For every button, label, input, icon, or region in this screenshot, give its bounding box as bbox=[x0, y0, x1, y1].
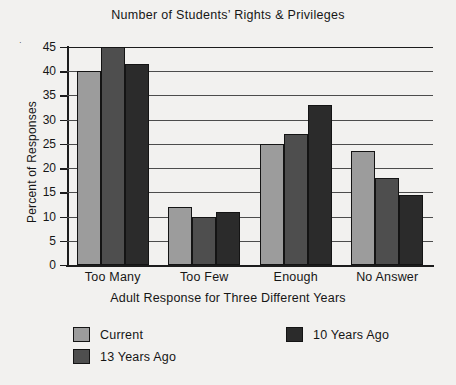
legend-entry[interactable]: 13 Years Ago bbox=[73, 349, 176, 364]
x-axis-title: Adult Response for Three Different Years bbox=[0, 291, 456, 305]
x-axis-tick-label: Too Few bbox=[159, 270, 251, 284]
chart-figure: Number of Students’ Rights & Privileges … bbox=[0, 0, 456, 385]
y-axis-tick-label: 30 bbox=[22, 114, 56, 126]
bar bbox=[216, 212, 240, 265]
bar bbox=[77, 71, 101, 265]
y-axis-tick bbox=[60, 217, 67, 218]
y-axis-tick bbox=[60, 95, 67, 96]
y-axis-tick-label: 15 bbox=[22, 186, 56, 198]
y-axis-tick-label: 45 bbox=[22, 41, 56, 53]
y-axis-tick bbox=[60, 120, 67, 121]
bar bbox=[399, 195, 423, 265]
y-axis-tick bbox=[60, 47, 67, 48]
y-axis-tick bbox=[60, 168, 67, 169]
x-axis-tick-label: Enough bbox=[250, 270, 342, 284]
bar bbox=[168, 207, 192, 265]
x-axis-tick-label: Too Many bbox=[67, 270, 159, 284]
y-axis-tick-label: 10 bbox=[22, 211, 56, 223]
legend-label: 13 Years Ago bbox=[100, 350, 176, 364]
bar bbox=[351, 151, 375, 265]
legend-swatch-icon bbox=[286, 327, 303, 342]
legend-swatch-icon bbox=[73, 349, 90, 364]
y-axis-tick-label: 25 bbox=[22, 138, 56, 150]
bar bbox=[101, 47, 125, 265]
y-axis-tick-label: 20 bbox=[22, 162, 56, 174]
y-axis-tick bbox=[60, 241, 67, 242]
bar bbox=[375, 178, 399, 265]
y-axis-tick bbox=[60, 71, 67, 72]
y-axis-tick-label: 35 bbox=[22, 89, 56, 101]
legend-label: Current bbox=[100, 328, 143, 342]
y-axis-top-mark: · bbox=[19, 38, 22, 47]
legend-entry[interactable]: 10 Years Ago bbox=[286, 327, 389, 342]
y-axis-tick-labels: 051015202530354045· bbox=[16, 0, 56, 385]
bar bbox=[125, 64, 149, 265]
legend-entry[interactable]: Current bbox=[73, 327, 143, 342]
y-axis-tick-label: 5 bbox=[22, 235, 56, 247]
x-axis-line bbox=[66, 265, 434, 267]
bar bbox=[192, 217, 216, 265]
plot-area bbox=[67, 47, 433, 265]
bar bbox=[308, 105, 332, 265]
y-axis-tick-label: 40 bbox=[22, 65, 56, 77]
x-axis-tick-label: No Answer bbox=[342, 270, 434, 284]
chart-title: Number of Students’ Rights & Privileges bbox=[0, 8, 456, 22]
y-axis-tick bbox=[60, 192, 67, 193]
y-axis-tick bbox=[60, 265, 67, 266]
bar bbox=[260, 144, 284, 265]
chart-legend: Current13 Years Ago10 Years Ago bbox=[73, 327, 403, 373]
y-axis-tick-label: 0 bbox=[22, 259, 56, 271]
y-axis-tick bbox=[60, 144, 67, 145]
bar bbox=[284, 134, 308, 265]
legend-swatch-icon bbox=[73, 327, 90, 342]
legend-label: 10 Years Ago bbox=[313, 328, 389, 342]
